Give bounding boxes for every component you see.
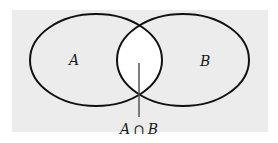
intersection-operator: ∩ [133, 121, 145, 137]
intersection-label-left: A [118, 121, 130, 137]
intersection-label: A∩B [118, 121, 158, 137]
set-a-label: A [67, 52, 79, 68]
intersection-label-right: B [147, 121, 158, 137]
venn-diagram: A B A∩B [0, 0, 278, 143]
set-b-label: B [199, 53, 210, 69]
